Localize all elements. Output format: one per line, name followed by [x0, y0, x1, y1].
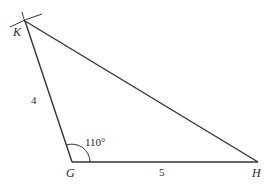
triangle-diagram: K G H 4 5 110° — [0, 0, 272, 184]
vertex-label-H: H — [251, 166, 262, 180]
vertex-label-K: K — [12, 25, 22, 39]
angle-label-G: 110° — [85, 136, 106, 148]
side-label-KG: 4 — [31, 94, 37, 106]
side-KH — [25, 21, 258, 162]
side-KG — [25, 21, 72, 162]
vertex-label-G: G — [66, 166, 75, 180]
side-label-GH: 5 — [159, 166, 165, 178]
